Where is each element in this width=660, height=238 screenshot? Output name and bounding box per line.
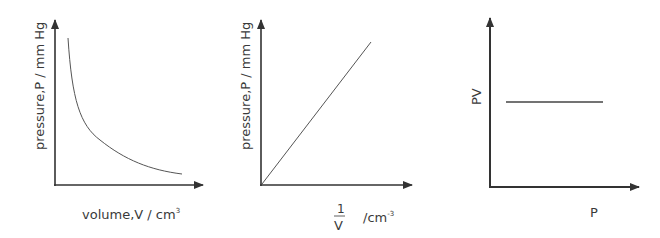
chart-p-vs-v: pressure,P / mm Hg volume,V / cm3 xyxy=(32,20,203,222)
linear-line xyxy=(262,42,371,184)
x-axis-label: P xyxy=(590,205,598,220)
svg-text:/cm-3: /cm-3 xyxy=(363,210,394,225)
chart-p-vs-inverse-v: pressure,P / mm Hg 1 V /cm-3 xyxy=(238,20,412,233)
y-axis-label: PV xyxy=(469,88,484,105)
y-axis-label: pressure,P / mm Hg xyxy=(238,22,253,150)
boyles-law-figure: pressure,P / mm Hg volume,V / cm3 pressu… xyxy=(0,0,660,238)
x-axis-label: volume,V / cm3 xyxy=(82,207,180,222)
svg-text:V: V xyxy=(334,218,343,233)
y-axis-label: pressure,P / mm Hg xyxy=(32,22,47,150)
chart-pv-vs-p: PV P xyxy=(469,18,639,220)
x-axis-label: 1 V /cm-3 xyxy=(334,202,394,233)
svg-text:1: 1 xyxy=(337,202,345,216)
hyperbola-curve xyxy=(68,38,182,174)
